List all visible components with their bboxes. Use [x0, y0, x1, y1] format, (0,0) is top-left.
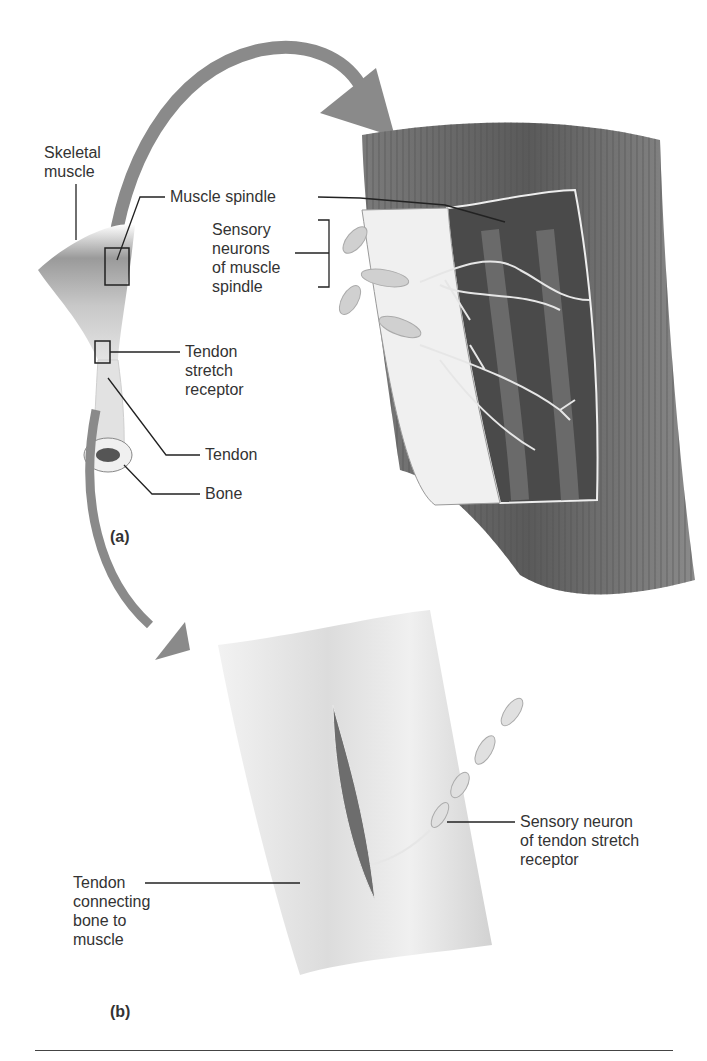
label-tendon: Tendon: [205, 445, 258, 464]
label-bone: Bone: [205, 484, 242, 503]
label-line: of tendon stretch: [520, 831, 639, 850]
muscle-spindle-detail: [335, 123, 695, 595]
bottom-divider: [35, 1050, 673, 1051]
label-line: spindle: [212, 277, 280, 296]
label-line: Tendon: [185, 342, 244, 361]
label-sensory-neuron-tendon: Sensory neuron of tendon stretch recepto…: [520, 812, 639, 869]
label-line: bone to: [73, 911, 150, 930]
skeletal-muscle-small: [38, 224, 135, 472]
panel-label-b: (b): [110, 1003, 130, 1021]
label-line: muscle: [44, 162, 101, 181]
label-line: neurons: [212, 239, 280, 258]
label-tendon-stretch-receptor: Tendon stretch receptor: [185, 342, 244, 399]
panel-label-a: (a): [110, 528, 130, 546]
label-line: Skeletal: [44, 143, 101, 162]
label-line: receptor: [520, 850, 639, 869]
label-line: receptor: [185, 380, 244, 399]
label-line: Sensory neuron: [520, 812, 639, 831]
label-sensory-neurons: Sensory neurons of muscle spindle: [212, 220, 280, 296]
label-tendon-connecting: Tendon connecting bone to muscle: [73, 873, 150, 949]
label-skeletal-muscle: Skeletal muscle: [44, 143, 101, 181]
label-line: connecting: [73, 892, 150, 911]
label-muscle-spindle: Muscle spindle: [170, 187, 276, 206]
label-line: muscle: [73, 930, 150, 949]
label-line: Sensory: [212, 220, 280, 239]
tendon-detail: [218, 610, 527, 975]
label-line: Tendon: [73, 873, 150, 892]
label-line: stretch: [185, 361, 244, 380]
label-line: of muscle: [212, 258, 280, 277]
